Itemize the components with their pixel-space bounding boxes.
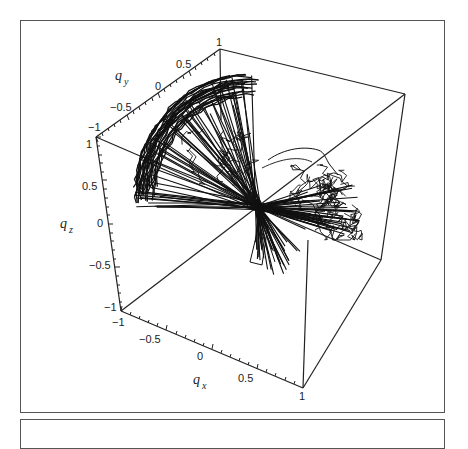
- qy-tick: −0.5: [110, 101, 132, 113]
- svg-text:y: y: [123, 76, 129, 87]
- qz-tick: −0.5: [89, 259, 111, 271]
- qy-tick: −1: [88, 121, 101, 133]
- qz-tick: 0: [97, 217, 103, 229]
- qy-tick: 0: [155, 80, 161, 92]
- qy-axis-title: q y: [115, 68, 129, 87]
- qx-tick: −1: [112, 316, 125, 328]
- svg-text:q: q: [60, 216, 67, 231]
- svg-text:z: z: [68, 224, 73, 235]
- qx-tick-labels: −1 −0.5 0 0.5 1: [112, 316, 305, 402]
- qz-tick: 0.5: [82, 180, 97, 192]
- qz-tick: 1: [86, 138, 92, 150]
- qx-tick: −0.5: [139, 333, 161, 345]
- trajectory-curves: [133, 75, 362, 275]
- svg-text:q: q: [193, 372, 200, 387]
- qz-tick: −1: [104, 301, 117, 313]
- qy-tick: 1: [216, 36, 222, 48]
- qz-axis-title: q z: [60, 216, 73, 235]
- qx-tick: 0: [197, 350, 203, 362]
- qx-axis-ticks: [121, 306, 295, 384]
- svg-text:x: x: [201, 380, 207, 391]
- svg-text:q: q: [115, 68, 122, 83]
- qx-tick: 0.5: [238, 372, 253, 384]
- qz-tick-labels: 1 0.5 0 −0.5 −1: [82, 138, 117, 313]
- qx-axis-title: q x: [193, 372, 207, 391]
- qy-tick: 0.5: [176, 58, 191, 70]
- qx-tick: 1: [299, 390, 305, 402]
